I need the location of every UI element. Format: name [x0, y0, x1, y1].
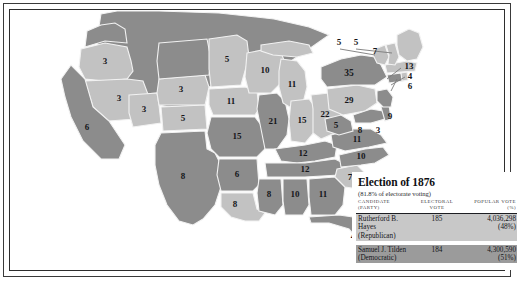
header-popular: POPULAR VOTE (%): [464, 199, 517, 210]
label-oh: 22: [321, 109, 331, 119]
label-ky: 12: [299, 148, 309, 158]
table-row: Rutherford B. Hayes (Republican) 185 4,0…: [356, 214, 517, 241]
label-ca: 6: [85, 122, 90, 132]
popular-vote: 4,036,298: [487, 215, 516, 223]
label-ks: 5: [181, 113, 186, 123]
header-electoral-line2: VOTE: [430, 205, 445, 210]
header-popular-line1: POPULAR VOTE: [474, 199, 516, 204]
label-pa: 29: [345, 95, 355, 105]
header-electoral: ELECTORAL VOTE: [410, 199, 464, 210]
row-candidate-cell: Samuel J. Tilden (Democratic): [356, 245, 410, 263]
label-wi: 10: [261, 65, 271, 75]
row-popular-cell: 4,036,298 (48%): [464, 214, 517, 241]
state-me: [397, 29, 423, 61]
label-tx: 8: [181, 171, 186, 181]
label-il: 21: [269, 116, 279, 126]
label-me: 7: [373, 46, 378, 56]
leader-vt: [340, 49, 375, 55]
label-vt: 5: [337, 37, 342, 47]
legend-title: Election of 1876: [358, 176, 517, 189]
candidate-party: (Republican): [358, 232, 408, 240]
label-ar: 6: [235, 169, 240, 179]
election-results-legend: Election of 1876 (81.8% of electorate vo…: [352, 172, 517, 270]
popular-pct: (48%): [466, 223, 516, 231]
header-candidate-line2: (PARTY): [358, 205, 380, 210]
results-table: CANDIDATE (PARTY) ELECTORAL VOTE POPULAR…: [356, 199, 517, 263]
row-electoral-cell: 185: [410, 214, 464, 241]
candidate-party: (Democratic): [358, 254, 408, 262]
row-popular-cell: 4,300,590 (51%): [464, 245, 517, 263]
label-or: 3: [103, 56, 108, 66]
label-va: 11: [353, 134, 362, 144]
table-header-row: CANDIDATE (PARTY) ELECTORAL VOTE POPULAR…: [356, 199, 517, 210]
label-ms: 8: [267, 189, 272, 199]
label-nc: 10: [357, 151, 367, 161]
header-popular-line2: (%): [507, 205, 516, 210]
label-la: 8: [233, 199, 238, 209]
label-ne: 3: [179, 84, 184, 94]
label-wv: 5: [334, 120, 339, 130]
state-dakota-terr: [157, 39, 211, 79]
label-mo: 15: [233, 131, 243, 141]
label-md: 8: [358, 125, 363, 135]
candidate-name: Rutherford B. Hayes: [358, 215, 398, 231]
label-co: 3: [142, 104, 147, 114]
label-ia: 11: [227, 96, 236, 106]
label-ct: 6: [408, 81, 413, 91]
label-nh: 5: [354, 37, 359, 47]
label-nv: 3: [117, 93, 122, 103]
label-ri: 4: [408, 71, 413, 81]
state-ct: [387, 73, 403, 83]
popular-vote: 4,300,590: [487, 246, 516, 254]
election-map-figure: 3 3 6 3 3 5 8 5 11 15 6 8 10 21 8 11 15 …: [0, 0, 517, 282]
candidate-name: Samuel J. Tilden: [358, 246, 406, 254]
label-in: 15: [298, 115, 308, 125]
header-electoral-line1: ELECTORAL: [421, 199, 454, 204]
header-candidate-line1: CANDIDATE: [358, 199, 390, 204]
label-tn: 12: [301, 164, 311, 174]
legend-subtitle: (81.8% of electorate voting): [358, 190, 517, 197]
state-nj: [377, 89, 393, 107]
label-nj: 9: [388, 111, 393, 121]
label-de: 3: [376, 125, 381, 135]
table-row: Samuel J. Tilden (Democratic) 184 4,300,…: [356, 245, 517, 263]
label-al: 10: [291, 189, 301, 199]
popular-pct: (51%): [466, 254, 516, 262]
label-ga: 11: [319, 189, 328, 199]
label-ma: 13: [405, 61, 415, 71]
label-mi: 11: [288, 79, 297, 89]
row-candidate-cell: Rutherford B. Hayes (Republican): [356, 214, 410, 241]
label-ny: 35: [344, 68, 354, 78]
header-candidate: CANDIDATE (PARTY): [356, 199, 410, 210]
label-mn: 5: [225, 54, 230, 64]
row-electoral-cell: 184: [410, 245, 464, 263]
